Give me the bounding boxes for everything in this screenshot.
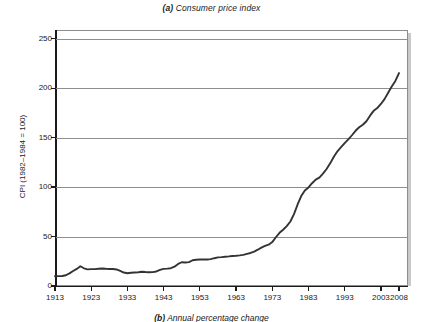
panel-b-title-text: Annual percentage change	[165, 313, 269, 322]
series-layer	[0, 0, 423, 322]
panel-b-tag: (b)	[154, 313, 165, 322]
cpi-line-series	[55, 73, 399, 276]
panel-b-title: (b) Annual percentage change	[0, 313, 423, 322]
cpi-figure: (a) Consumer price index CPI (1982–1984 …	[0, 0, 423, 322]
